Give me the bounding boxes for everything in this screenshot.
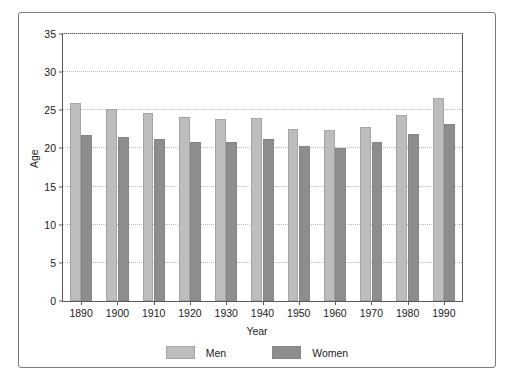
- bar-group: [179, 34, 201, 301]
- legend-swatch-men: [166, 346, 195, 359]
- bar-men-1970: [360, 127, 371, 301]
- bar-women-1980: [408, 134, 419, 301]
- bar-men-1920: [179, 117, 190, 301]
- y-tick-mark: [59, 110, 63, 111]
- legend-item-women[interactable]: Women: [272, 346, 348, 359]
- bar-men-1980: [396, 115, 407, 301]
- x-tick-label: 1930: [215, 307, 238, 319]
- x-tick-mark: [226, 301, 227, 305]
- y-tick-label: 25: [44, 104, 56, 116]
- bar-women-1950: [299, 146, 310, 301]
- x-tick-mark: [81, 301, 82, 305]
- x-tick-label: 1890: [69, 307, 92, 319]
- y-axis-label: Age: [28, 149, 40, 168]
- bar-men-1940: [251, 118, 262, 301]
- bar-men-1990: [433, 98, 444, 301]
- bar-women-1890: [81, 135, 92, 301]
- y-tick-mark: [59, 224, 63, 225]
- y-tick-label: 10: [44, 219, 56, 231]
- legend-item-men[interactable]: Men: [166, 346, 226, 359]
- x-tick-label: 1900: [106, 307, 129, 319]
- y-tick-mark: [59, 301, 63, 302]
- x-tick-mark: [371, 301, 372, 305]
- bar-group: [251, 34, 273, 301]
- x-tick-label: 1940: [251, 307, 274, 319]
- bar-women-1910: [154, 139, 165, 301]
- y-tick-label: 35: [44, 28, 56, 40]
- x-tick-label: 1950: [287, 307, 310, 319]
- legend-label: Men: [206, 347, 226, 359]
- y-tick-mark: [59, 34, 63, 35]
- x-tick-label: 1960: [323, 307, 346, 319]
- x-tick-label: 1910: [142, 307, 165, 319]
- x-tick-mark: [444, 301, 445, 305]
- x-axis-label: Year: [19, 325, 495, 337]
- bar-group: [70, 34, 92, 301]
- legend-label: Women: [312, 347, 348, 359]
- plot-area: 05101520253035 1890190019101920193019401…: [62, 33, 463, 302]
- y-tick-label: 20: [44, 142, 56, 154]
- x-tick-mark: [190, 301, 191, 305]
- bar-group: [143, 34, 165, 301]
- y-tick-mark: [59, 262, 63, 263]
- bar-men-1960: [324, 130, 335, 301]
- x-tick-mark: [263, 301, 264, 305]
- bar-men-1950: [288, 129, 299, 301]
- y-tick-label: 15: [44, 181, 56, 193]
- bar-men-1900: [106, 109, 117, 301]
- y-tick-label: 30: [44, 66, 56, 78]
- bar-women-1900: [118, 137, 129, 301]
- chart-figure: Age 05101520253035 189019001910192019301…: [18, 12, 496, 368]
- bar-group: [360, 34, 382, 301]
- bar-group: [106, 34, 128, 301]
- y-tick-mark: [59, 148, 63, 149]
- bar-women-1920: [190, 142, 201, 301]
- y-tick-label: 5: [50, 257, 56, 269]
- bar-women-1990: [444, 124, 455, 301]
- bar-women-1940: [263, 139, 274, 301]
- bar-group: [288, 34, 310, 301]
- bar-women-1970: [372, 142, 383, 301]
- x-tick-label: 1970: [360, 307, 383, 319]
- bar-group: [215, 34, 237, 301]
- bar-women-1960: [335, 148, 346, 301]
- x-tick-mark: [408, 301, 409, 305]
- x-tick-label: 1980: [396, 307, 419, 319]
- y-tick-label: 0: [50, 295, 56, 307]
- bar-group: [396, 34, 418, 301]
- x-tick-label: 1990: [432, 307, 455, 319]
- x-tick-label: 1920: [178, 307, 201, 319]
- x-tick-mark: [154, 301, 155, 305]
- x-tick-mark: [335, 301, 336, 305]
- bar-men-1890: [70, 103, 81, 301]
- bar-men-1930: [215, 119, 226, 301]
- y-tick-mark: [59, 186, 63, 187]
- bar-women-1930: [226, 142, 237, 301]
- bar-men-1910: [143, 113, 154, 301]
- x-tick-mark: [299, 301, 300, 305]
- legend-swatch-women: [272, 346, 301, 359]
- chart-legend: MenWomen: [19, 346, 495, 359]
- x-tick-mark: [117, 301, 118, 305]
- y-tick-mark: [59, 72, 63, 73]
- bar-group: [433, 34, 455, 301]
- bar-group: [324, 34, 346, 301]
